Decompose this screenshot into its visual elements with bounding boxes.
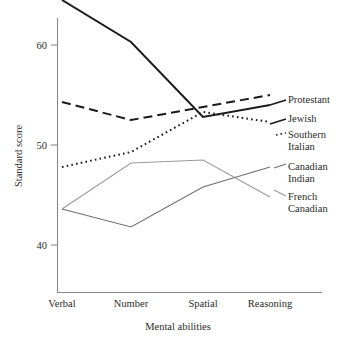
y-tick-label-60: 60 [37, 40, 48, 51]
x-axis-title: Mental abilities [145, 321, 211, 332]
series-line-canadian-indian [62, 167, 270, 227]
legend-leader-french-canadian [274, 190, 286, 196]
x-tick-label-spatial: Spatial [188, 298, 217, 309]
x-tick-label-number: Number [114, 298, 149, 309]
legend-leader-southern-italian [276, 133, 286, 135]
y-tick-label-50: 50 [37, 140, 48, 151]
series-line-southern-italian [62, 112, 270, 167]
series-line-jewish [62, 0, 270, 117]
legend-label-italian: Italian [288, 141, 316, 152]
legend-label-indian: Indian [288, 173, 316, 184]
legend-label-jewish: Jewish [288, 113, 317, 124]
legend-label-canadian: Canadian [288, 161, 328, 172]
series-line-french-canadian [62, 160, 270, 209]
legend-label-southern: Southern [288, 129, 327, 140]
line-chart-canvas: 60 50 40 Standard score Verbal Number Sp… [0, 0, 349, 344]
y-tick-label-40: 40 [37, 240, 48, 251]
series-line-protestant [62, 95, 270, 120]
x-tick-label-reasoning: Reasoning [248, 298, 293, 309]
y-axis-title: Standard score [13, 125, 24, 187]
chart-figure: 60 50 40 Standard score Verbal Number Sp… [0, 0, 349, 344]
legend-label-protestant: Protestant [288, 94, 330, 105]
legend-leader-canadian-indian [274, 164, 286, 168]
legend-leader-protestant [270, 100, 286, 105]
legend-leader-jewish [270, 119, 286, 124]
legend-label-french: French [288, 191, 318, 202]
legend-label-french-canadian: Canadian [288, 203, 328, 214]
x-tick-label-verbal: Verbal [48, 298, 75, 309]
